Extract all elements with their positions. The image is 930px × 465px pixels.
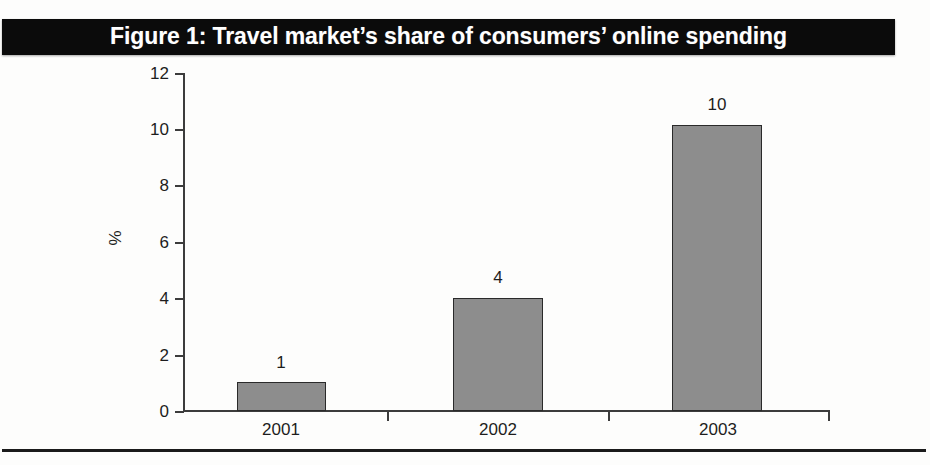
y-tick-label-0: 0	[129, 402, 169, 422]
x-tick-boundary-1	[387, 411, 389, 421]
y-tick-label-2: 2	[129, 346, 169, 366]
bottom-divider-rule	[2, 449, 926, 452]
bar-chart-plot: 12 10 8 6 4 2 0 % 1 4 10	[0, 0, 930, 465]
bar-2003	[672, 125, 762, 411]
y-tick-label-4: 4	[129, 289, 169, 309]
y-tick-0	[175, 411, 184, 413]
x-tick-label-2002: 2002	[438, 420, 558, 440]
y-tick-label-wrap-0: 0	[125, 412, 169, 413]
bar-value-2003: 10	[657, 95, 777, 115]
y-tick-10	[175, 129, 184, 131]
y-tick-8	[175, 185, 184, 187]
bar-value-2001: 1	[221, 353, 341, 373]
x-tick-label-2001: 2001	[221, 420, 341, 440]
y-tick-label-wrap-10: 10	[125, 130, 169, 131]
y-tick-label-6: 6	[129, 233, 169, 253]
x-tick-boundary-3	[828, 411, 830, 421]
y-tick-label-12: 12	[129, 64, 169, 84]
y-axis-title: %	[106, 208, 126, 268]
y-tick-2	[175, 355, 184, 357]
y-tick-label-wrap-4: 4	[125, 299, 169, 300]
y-tick-4	[175, 298, 184, 300]
y-tick-label-wrap-12: 12	[125, 74, 169, 75]
bar-value-2002: 4	[438, 268, 558, 288]
x-tick-label-2003: 2003	[658, 420, 778, 440]
y-tick-label-8: 8	[129, 176, 169, 196]
y-tick-label-wrap-6: 6	[125, 243, 169, 244]
y-tick-label-wrap-8: 8	[125, 186, 169, 187]
y-tick-label-wrap-2: 2	[125, 356, 169, 357]
y-tick-12	[175, 73, 184, 75]
x-tick-boundary-2	[608, 411, 610, 421]
y-tick-6	[175, 242, 184, 244]
figure-container: Figure 1: Travel market’s share of consu…	[0, 0, 930, 465]
bar-2001	[237, 382, 326, 411]
y-tick-label-10: 10	[129, 120, 169, 140]
bar-2002	[453, 298, 543, 411]
